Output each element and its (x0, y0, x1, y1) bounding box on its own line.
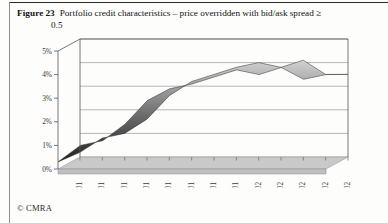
credit-characteristics-chart: 0%1%2%3%4%5% 5/016/017/018/019/0110/0111… (22, 36, 370, 188)
x-tick-label: 2/02 (277, 182, 285, 188)
figure-container: Figure23Portfolio credit characteristics… (0, 0, 388, 223)
copyright-footer: © CMRA (17, 203, 52, 213)
figure-label: Figure (17, 8, 43, 18)
y-tick-label: 3% (42, 94, 52, 103)
x-tick-label: 3/02 (299, 182, 307, 188)
x-tick-label: 5/02 (344, 182, 352, 188)
y-tick-label: 2% (42, 117, 52, 126)
figure-caption-line2: 0.5 (51, 19, 62, 31)
x-tick-label: 9/01 (165, 182, 173, 188)
left-rule (9, 2, 10, 223)
x-tick-label: 11/01 (210, 182, 218, 188)
y-axis-ticks: 0%1%2%3%4%5% (42, 47, 58, 174)
y-tick-label: 1% (42, 141, 52, 150)
data-ribbon (58, 60, 348, 162)
x-tick-label: 7/01 (121, 182, 129, 188)
gridlines-group (80, 39, 348, 157)
top-rule (9, 2, 388, 3)
chart-floor (58, 157, 348, 174)
y-tick-label: 4% (42, 70, 52, 79)
figure-number: 23 (45, 8, 54, 18)
figure-caption: Figure23Portfolio credit characteristics… (17, 7, 379, 19)
figure-caption-line1: Portfolio credit characteristics – price… (60, 8, 321, 18)
x-tick-label: 10/01 (188, 182, 196, 188)
x-tick-label: 4/02 (322, 182, 330, 188)
x-tick-label: 12/01 (232, 182, 240, 188)
y-tick-label: 0% (42, 165, 52, 174)
y-tick-label: 5% (42, 47, 52, 56)
chart-area: 0%1%2%3%4%5% 5/016/017/018/019/0110/0111… (22, 36, 370, 188)
x-tick-label: 1/02 (255, 182, 263, 188)
chart-frame (58, 39, 348, 169)
x-tick-label: 6/01 (98, 182, 106, 188)
x-tick-label: 5/01 (76, 182, 84, 188)
x-tick-label: 8/01 (143, 182, 151, 188)
